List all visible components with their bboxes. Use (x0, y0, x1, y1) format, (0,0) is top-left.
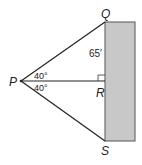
label-p: P (9, 75, 17, 89)
label-q: Q (101, 7, 110, 21)
building-rect (105, 22, 135, 141)
angle-lower: 40° (34, 83, 48, 93)
triangle-diagram: P Q R S 40° 40° 65′ (0, 0, 142, 165)
label-s: S (101, 144, 109, 158)
length-qr: 65′ (89, 48, 102, 59)
angle-upper: 40° (34, 71, 48, 81)
point-p (20, 80, 23, 83)
right-angle-marker (98, 75, 105, 81)
label-r: R (96, 86, 105, 100)
